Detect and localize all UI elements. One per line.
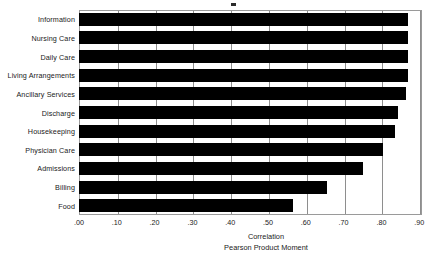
x-axis-tick-labels: .00.10.20.30.40.50.60.70.80.90 — [0, 218, 436, 230]
x-tick-label: .40 — [225, 218, 235, 227]
x-tick-label: .00 — [74, 218, 84, 227]
scan-artifact-speck — [231, 3, 236, 6]
category-label: Housekeeping — [0, 127, 75, 136]
category-axis-labels: InformationNursing CareDaily CareLiving … — [0, 10, 436, 215]
category-label: Information — [0, 15, 75, 24]
x-tick-label: .30 — [187, 218, 197, 227]
x-tick-label: .50 — [263, 218, 273, 227]
category-label: Daily Care — [0, 53, 75, 62]
category-label: Billing — [0, 183, 75, 192]
category-label: Nursing Care — [0, 34, 75, 43]
category-label: Physician Care — [0, 146, 75, 155]
x-axis-subtitle-text: Pearson Product Moment — [224, 243, 308, 252]
category-label: Living Arrangements — [0, 71, 75, 80]
x-tick-label: .10 — [112, 218, 122, 227]
category-label: Food — [0, 202, 75, 211]
category-label: Ancillary Services — [0, 90, 75, 99]
x-tick-label: .80 — [376, 218, 386, 227]
bar-chart: InformationNursing CareDaily CareLiving … — [0, 0, 436, 261]
x-axis-subtitle: Pearson Product Moment — [0, 243, 436, 252]
category-label: Admissions — [0, 164, 75, 173]
x-axis-title-text: Correlation — [248, 232, 284, 241]
category-label: Discharge — [0, 109, 75, 118]
x-tick-label: .70 — [339, 218, 349, 227]
x-tick-label: .90 — [414, 218, 424, 227]
x-axis-title: Correlation — [0, 232, 436, 241]
x-tick-label: .20 — [150, 218, 160, 227]
x-tick-label: .60 — [301, 218, 311, 227]
